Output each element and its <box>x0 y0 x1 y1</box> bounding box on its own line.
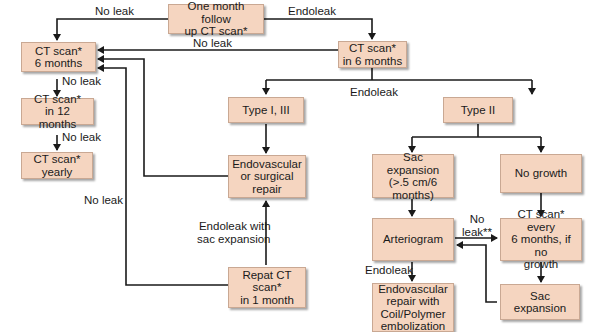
node-sac-expansion: Sac expansion <box>500 284 580 320</box>
node-ct-every-6-months: CT scan* every 6 months, if no growth <box>500 218 582 261</box>
label-no-leak-6-12: No leak <box>62 75 101 88</box>
node-repeat-ct-1-month: Repat CT scan* in 1 month <box>228 267 306 308</box>
node-one-month-ct: One month follow up CT scan* <box>168 4 264 34</box>
label-endoleak-mid: Endoleak <box>350 86 398 99</box>
node-endovascular-surgical-repair: Endovascular or surgical repair <box>228 155 306 198</box>
label-no-leak-12-yearly: No leak <box>62 131 101 144</box>
node-type-1-3: Type I, III <box>228 97 304 123</box>
label-no-leak-mid: No leak <box>193 37 232 50</box>
node-ct-yearly: CT scan* yearly <box>21 152 93 179</box>
node-arteriogram: Arteriogram <box>372 218 454 261</box>
label-endoleak-arteriogram: Endoleak <box>365 264 413 277</box>
label-endoleak-sac-expansion: Endoleak with sac expansion <box>197 220 271 245</box>
label-endoleak-top: Endoleak <box>288 5 336 18</box>
node-type-2: Type II <box>443 97 513 123</box>
label-no-leak-top: No leak <box>95 5 134 18</box>
node-sac-expansion-threshold: Sac expansion (>.5 cm/6 months) <box>372 154 454 198</box>
node-endovascular-coil-polymer: Endovascular repair with Coil/Polymer em… <box>372 283 454 332</box>
label-no-leak-star: No leak** <box>462 213 492 238</box>
label-no-leak-left: No leak <box>84 194 123 207</box>
node-no-growth: No growth <box>500 154 582 193</box>
node-ct-6-months: CT scan* 6 months <box>21 42 96 72</box>
node-ct-12-months: CT scan* in 12 months <box>21 98 94 125</box>
node-ct-in-6-months: CT scan* in 6 months <box>338 41 407 68</box>
